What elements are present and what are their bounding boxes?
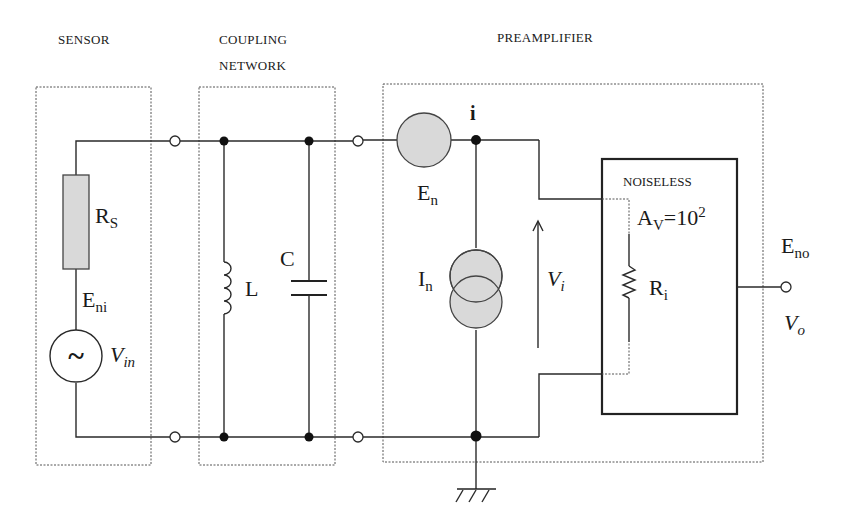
inductor-icon — [224, 262, 231, 314]
label-ri: Ri — [649, 275, 668, 303]
source-resistor-rs — [63, 175, 89, 269]
preamplifier-header: PREAMPLIFIER — [497, 30, 593, 45]
terminal-coupling-top — [353, 136, 363, 146]
label-vi: Vi — [547, 266, 565, 294]
node-label-i: i — [470, 102, 476, 124]
label-vin: Vin — [110, 342, 135, 370]
label-eni: Eni — [82, 287, 107, 315]
noiseless-amplifier-box — [602, 159, 737, 414]
preamplifier-circuit — [363, 113, 791, 502]
circuit-diagram: SENSOR COUPLING NETWORK PREAMPLIFIER ~ R… — [0, 0, 851, 528]
label-inductor: L — [245, 276, 258, 301]
amplifier-label: NOISELESS — [623, 174, 692, 189]
sensor-box — [36, 87, 151, 465]
label-rs: RS — [95, 203, 118, 231]
sensor-circuit: ~ — [50, 141, 170, 437]
terminal-sensor-bottom — [170, 432, 180, 442]
label-eno: Eno — [781, 233, 809, 261]
coupling-header-line1: COUPLING — [219, 32, 287, 47]
sensor-header: SENSOR — [58, 32, 110, 47]
terminal-coupling-bottom — [353, 432, 363, 442]
voltage-noise-source-en — [397, 113, 451, 167]
sine-wave-icon: ~ — [68, 339, 84, 372]
coupling-box — [199, 87, 335, 465]
label-en: En — [417, 180, 438, 208]
terminal-output — [781, 282, 791, 292]
coupling-circuit — [180, 137, 353, 442]
label-capacitor: C — [280, 246, 295, 271]
gain-label: AV=102 — [637, 204, 706, 233]
label-vo: Vo — [784, 310, 805, 338]
label-in: In — [418, 266, 433, 294]
terminal-sensor-top — [170, 136, 180, 146]
coupling-header-line2: NETWORK — [219, 58, 286, 73]
